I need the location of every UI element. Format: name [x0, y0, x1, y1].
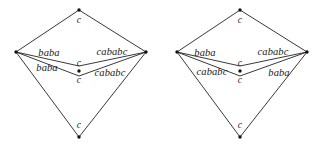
right-diagram-vertex-right	[305, 50, 308, 53]
left-diagram-vertex-left	[14, 50, 17, 53]
right-diagram-vertex-top	[238, 8, 241, 11]
right-diagram-bottom-left-edge	[177, 52, 240, 137]
right-diagram-top-vertex-label: c	[238, 16, 242, 26]
right-diagram-center-lower-vertex-label: c	[238, 76, 242, 86]
left-diagram-vertex-right	[144, 50, 147, 53]
right-diagram-vertex-left	[175, 50, 178, 53]
right-diagram-vertex-bottom	[238, 135, 241, 138]
left-diagram-lower-left-edge-label: baba	[36, 63, 57, 74]
right-diagram-lower-right-edge-label: baba	[268, 68, 289, 79]
left-diagram-bottom-right-edge	[79, 52, 146, 137]
right-diagram-bottom-vertex-label: c	[238, 121, 242, 131]
left-diagram-vertex-bottom	[77, 135, 80, 138]
left-diagram-lower-right-edge-label: cababc	[95, 68, 126, 79]
right-diagram-lower-left-edge-label: cababc	[197, 67, 228, 78]
left-diagram-vertex-center	[77, 69, 80, 72]
right-diagram-upper-left-edge-label: baba	[194, 48, 215, 59]
right-diagram-top-left-edge	[177, 10, 240, 52]
left-diagram-vertex-top	[77, 8, 80, 11]
left-diagram-upper-right-edge-label: cababc	[97, 47, 128, 58]
left-diagram-bottom-vertex-label: c	[77, 121, 81, 131]
right-diagram-bottom-right-edge	[240, 52, 307, 137]
left-diagram-top-left-edge	[16, 10, 79, 52]
right-diagram-vertex-center	[238, 69, 241, 72]
left-diagram-center-lower-vertex-label: c	[77, 76, 81, 86]
left-diagram-edges	[14, 8, 147, 138]
right-diagram-center-vertex-label: c	[238, 59, 242, 69]
right-diagram-upper-right-edge-label: cababc	[258, 47, 289, 58]
left-diagram-top-vertex-label: c	[77, 16, 81, 26]
left-diagram-upper-left-edge-label: baba	[38, 48, 59, 59]
left-diagram-center-vertex-label: c	[77, 59, 81, 69]
figure-canvas: c c c c baba cababc baba cababc c c c c …	[0, 0, 321, 149]
